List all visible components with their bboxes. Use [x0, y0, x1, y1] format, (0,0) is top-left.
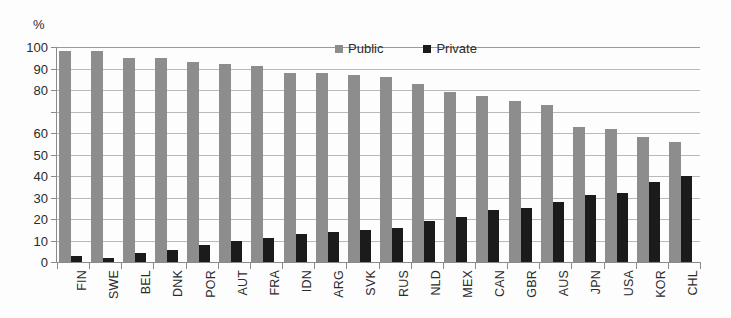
x-axis-category-label: ARG — [332, 270, 346, 298]
bar-private[interactable] — [392, 228, 403, 262]
x-axis-tick — [250, 263, 251, 269]
x-axis-category-label: SWE — [107, 270, 121, 299]
bar-private[interactable] — [135, 253, 146, 262]
bar-public[interactable] — [251, 66, 263, 262]
x-axis-tick — [346, 263, 347, 269]
x-axis-category-label: SVK — [364, 270, 378, 296]
bar-public[interactable] — [187, 62, 199, 262]
legend-swatch-private-icon — [423, 45, 431, 53]
bar-group — [282, 47, 314, 262]
y-axis-tick — [51, 198, 57, 199]
bar-private[interactable] — [553, 202, 564, 262]
bar-group — [186, 47, 218, 262]
x-axis-category-label: DNK — [171, 270, 185, 297]
x-axis-category-label: AUS — [557, 270, 571, 296]
x-axis-tick — [314, 263, 315, 269]
bar-private[interactable] — [488, 210, 499, 262]
bar-public[interactable] — [284, 73, 296, 262]
plot-area — [57, 47, 700, 262]
bar-group — [121, 47, 153, 262]
y-axis-tick-label: 20 — [34, 213, 48, 226]
bar-private[interactable] — [296, 234, 307, 262]
x-axis-tick — [539, 263, 540, 269]
bar-public[interactable] — [637, 137, 649, 262]
x-axis-category-label: BEL — [139, 270, 153, 294]
x-axis-tick — [89, 263, 90, 269]
bar-public[interactable] — [669, 142, 681, 262]
bar-public[interactable] — [412, 84, 424, 262]
x-axis-category-label: MEX — [461, 270, 475, 298]
bar-public[interactable] — [444, 92, 456, 262]
bar-group — [218, 47, 250, 262]
bar-public[interactable] — [509, 101, 521, 262]
legend-label-public: Public — [348, 41, 383, 56]
x-axis-tick — [379, 263, 380, 269]
bar-group — [507, 47, 539, 262]
bar-public[interactable] — [573, 127, 585, 262]
bar-private[interactable] — [263, 238, 274, 262]
y-axis-tick-label: 0 — [41, 256, 48, 269]
legend-label-private: Private — [436, 41, 476, 56]
bar-private[interactable] — [328, 232, 339, 262]
x-axis-tick — [443, 263, 444, 269]
x-axis-category-label: CHL — [686, 270, 700, 296]
chart-legend: Public Private — [335, 41, 477, 56]
y-axis-tick-label: 80 — [34, 84, 48, 97]
x-axis-category-label: GBR — [525, 270, 539, 298]
bar-public[interactable] — [219, 64, 231, 262]
bar-group — [250, 47, 282, 262]
bar-private[interactable] — [199, 245, 210, 262]
bar-public[interactable] — [348, 75, 360, 262]
bar-private[interactable] — [521, 208, 532, 262]
y-axis-tick-label: 10 — [34, 235, 48, 248]
bar-public[interactable] — [316, 73, 328, 262]
x-axis-category-label: FIN — [75, 270, 89, 291]
x-axis-category-label: POR — [204, 270, 218, 298]
y-axis-tick — [51, 69, 57, 70]
bar-public[interactable] — [476, 96, 488, 262]
y-axis-tick-label: 60 — [34, 127, 48, 140]
legend-swatch-public-icon — [335, 45, 343, 53]
bar-group — [153, 47, 185, 262]
x-axis-tick — [475, 263, 476, 269]
legend-item-public[interactable]: Public — [335, 41, 383, 56]
x-axis-category-label: RUS — [397, 270, 411, 297]
bar-public[interactable] — [605, 129, 617, 262]
bar-public[interactable] — [123, 58, 135, 262]
x-axis-category-label: FRA — [268, 270, 282, 296]
bar-group — [571, 47, 603, 262]
bar-public[interactable] — [541, 105, 553, 262]
bar-group — [668, 47, 700, 262]
bar-private[interactable] — [424, 221, 435, 262]
bar-public[interactable] — [380, 77, 392, 262]
y-axis-tick — [51, 219, 57, 220]
bar-group — [57, 47, 89, 262]
bar-public[interactable] — [59, 51, 71, 262]
y-axis-tick — [51, 90, 57, 91]
bar-private[interactable] — [681, 176, 692, 262]
y-axis-tick-label: 30 — [34, 192, 48, 205]
bar-private[interactable] — [231, 241, 242, 263]
bar-private[interactable] — [617, 193, 628, 262]
y-axis-tick — [51, 176, 57, 177]
x-axis-tick — [282, 263, 283, 269]
bar-private[interactable] — [167, 250, 178, 262]
x-axis-tick — [571, 263, 572, 269]
y-axis-tick — [51, 47, 57, 48]
bar-group — [346, 47, 378, 262]
bar-public[interactable] — [155, 58, 167, 262]
x-axis-tick — [668, 263, 669, 269]
bar-public[interactable] — [91, 51, 103, 262]
bar-private[interactable] — [360, 230, 371, 262]
bar-private[interactable] — [585, 195, 596, 262]
x-axis-tick — [57, 263, 58, 269]
x-axis-tick — [153, 263, 154, 269]
y-axis-tick-labels: 10090806050403020100 — [0, 0, 48, 318]
legend-item-private[interactable]: Private — [423, 41, 476, 56]
bar-private[interactable] — [649, 182, 660, 262]
bar-group — [314, 47, 346, 262]
bar-group — [411, 47, 443, 262]
bar-private[interactable] — [456, 217, 467, 262]
x-axis-tick — [507, 263, 508, 269]
chart-container: % 10090806050403020100 Public Private FI… — [0, 0, 731, 318]
